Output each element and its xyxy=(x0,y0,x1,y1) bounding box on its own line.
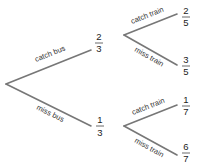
numerator: 2 xyxy=(96,31,101,42)
fraction-catch-bus: 2 3 xyxy=(95,31,103,54)
fraction-catch-train-2: 1 7 xyxy=(182,94,190,117)
numerator: 2 xyxy=(183,5,188,16)
fraction-catch-train-1: 2 5 xyxy=(182,5,190,28)
denominator: 5 xyxy=(183,66,188,77)
denominator: 7 xyxy=(183,153,188,163)
fraction-miss-train-1: 3 5 xyxy=(182,54,190,77)
numerator: 1 xyxy=(97,114,102,125)
label-catch-train-1: catch train xyxy=(129,5,164,26)
label-catch-bus: catch bus xyxy=(33,43,66,63)
numerator: 3 xyxy=(183,54,188,65)
numerator: 1 xyxy=(183,94,188,105)
branch-miss-bus xyxy=(6,84,91,126)
denominator: 7 xyxy=(183,106,188,117)
label-catch-train-2: catch train xyxy=(130,96,165,117)
fraction-miss-bus: 1 3 xyxy=(96,114,104,138)
denominator: 5 xyxy=(183,17,188,28)
denominator: 3 xyxy=(96,43,101,54)
fraction-miss-train-2: 6 7 xyxy=(182,141,190,163)
tree-diagram: catch bus miss bus 2 3 1 3 catch train m… xyxy=(0,0,197,163)
denominator: 3 xyxy=(97,127,102,138)
numerator: 6 xyxy=(183,141,188,152)
